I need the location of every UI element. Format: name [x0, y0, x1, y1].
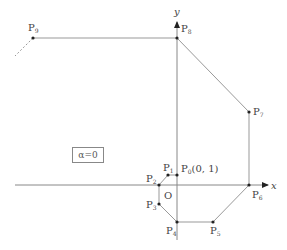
label-p1: P1: [163, 162, 174, 174]
diagram-svg: x y O P0(0, 1) P1 P2 P3 P4 P5 P6 P7 P8 P…: [0, 0, 287, 250]
point-p0: [175, 173, 178, 176]
point-p4: [175, 220, 178, 223]
point-p7: [247, 110, 250, 113]
label-p5: P5: [210, 225, 221, 237]
point-p5: [211, 220, 214, 223]
point-p3: [157, 202, 160, 205]
x-axis-label: x: [271, 180, 277, 191]
label-p3: P3: [146, 199, 157, 211]
label-p4: P4: [166, 225, 177, 237]
point-p6: [247, 183, 250, 186]
alpha-parameter-box: α=0: [72, 147, 104, 163]
label-p6: P6: [252, 189, 263, 201]
label-p2: P2: [146, 173, 157, 185]
point-p2: [157, 183, 160, 186]
point-p9: [31, 36, 34, 39]
label-p0: P0(0, 1): [181, 163, 219, 175]
y-axis-label: y: [173, 6, 180, 17]
spiral-path: [33, 38, 249, 222]
label-p9: P9: [28, 22, 39, 34]
origin-label: O: [164, 190, 172, 201]
continuation-dashed-line: [15, 38, 33, 56]
label-p8: P8: [181, 23, 192, 35]
label-p7: P7: [253, 106, 264, 118]
point-p8: [175, 36, 178, 39]
diagram-canvas: x y O P0(0, 1) P1 P2 P3 P4 P5 P6 P7 P8 P…: [0, 0, 287, 250]
